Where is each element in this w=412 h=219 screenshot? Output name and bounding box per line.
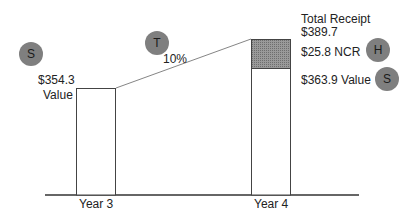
badge-label: S [27,47,35,61]
growth-label: 10% [163,52,187,66]
year4-value-label: $363.9 Value [301,73,371,87]
total-receipt-amount: $389.7 [301,25,338,39]
x-label-year4: Year 4 [254,197,288,211]
bar-year3-value [77,89,116,196]
ncr-label: $25.8 NCR [301,45,360,59]
badge-label: S [383,72,391,86]
badge-s-right: S [375,67,399,91]
badge-label: T [153,36,160,50]
diagram-canvas [0,0,412,219]
x-label-year3: Year 3 [79,197,113,211]
year3-value-amount: $354.3 [38,73,75,87]
total-receipt-label: Total Receipt [301,12,370,26]
bar-year4-ncr [252,40,291,69]
year3-value-label: Value [43,88,73,102]
badge-h: H [366,38,390,62]
bar-year4-value [252,69,291,196]
badge-label: H [374,43,383,57]
badge-s-left: S [19,42,43,66]
